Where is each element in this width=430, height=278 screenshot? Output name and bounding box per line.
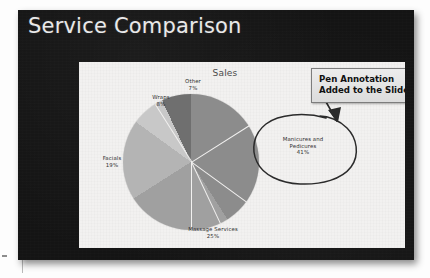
pie-label-facials-text: Facials [103,155,122,161]
ink-arrow-head-fill-icon [328,107,341,122]
screenshot-root: Service Comparison Sales Other 7% Wraps … [0,0,430,278]
pie-label-wraps: Wraps 8% [141,94,181,107]
ink-arrow-head-icon [330,109,338,121]
pie-label-facials: Facials 19% [91,155,133,168]
pie-chart[interactable] [123,94,259,230]
chart-panel[interactable]: Sales Other 7% Wraps 8% Facials 19% Mass… [79,62,405,248]
pie-label-manicures-line2: Pedicures [267,143,339,150]
page-mark-artifact [2,255,7,257]
callout-line-2: Added to the Slide [319,85,405,96]
presentation-slide[interactable]: Service Comparison Sales Other 7% Wraps … [18,10,414,260]
pie-slice-separator [191,162,192,230]
pen-annotation-callout[interactable]: Pen Annotation Added to the Slide [311,68,405,103]
slide-title: Service Comparison [28,13,242,39]
callout-line-1: Pen Annotation [319,74,394,84]
pie-label-massage-services-text: Massage Services [188,226,238,232]
pie-label-other: Other 7% [173,78,213,91]
pie-label-manicures-value: 41% [267,149,339,156]
pie-label-facials-value: 19% [91,162,133,169]
chart-title: Sales [170,68,280,78]
pie-label-other-text: Other [185,78,201,84]
pie-label-wraps-text: Wraps [152,94,169,100]
pie-label-manicures-and-pedicures: Manicures and Pedicures 41% [267,136,339,156]
pie-label-manicures-line1: Manicures and [283,136,324,142]
pie-label-massage-services-value: 25% [171,233,255,240]
pie-label-wraps-value: 8% [141,101,181,108]
pie-label-massage-services: Massage Services 25% [171,226,255,239]
pie-label-other-value: 7% [173,85,213,92]
